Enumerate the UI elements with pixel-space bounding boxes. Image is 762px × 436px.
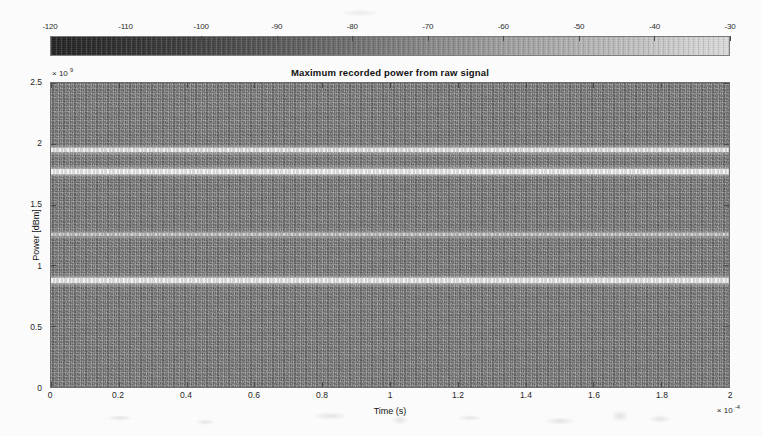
noise-floor-texture — [50, 82, 730, 388]
colorbar-tick-mark — [352, 36, 353, 41]
x-tick-mark — [729, 382, 730, 387]
carrier-band-2-core — [51, 169, 729, 174]
x-tick-mark — [390, 382, 391, 387]
y-tick-mark-right — [724, 83, 729, 84]
x-tick-label: 1 — [388, 390, 393, 400]
x-tick-label: 0.4 — [180, 390, 192, 400]
carrier-band-4 — [51, 278, 729, 283]
colorbar-tick-label: -110 — [118, 22, 133, 31]
y-tick-mark-right — [724, 265, 729, 266]
colorbar-tick-label: -70 — [422, 22, 433, 31]
colorbar-noise-overlay — [51, 37, 729, 55]
colorbar-tick-label: -40 — [649, 22, 660, 31]
x-tick-label: 1.4 — [520, 390, 532, 400]
colorbar-tick-mark — [654, 36, 655, 41]
carrier-band-3-core — [51, 233, 729, 236]
y-tick-mark-right — [724, 326, 729, 327]
colorbar-tick-label: -60 — [498, 22, 509, 31]
plot-title: Maximum recorded power from raw signal — [291, 67, 489, 78]
x-tick-label: 2 — [728, 390, 733, 400]
carrier-band-2-speckle — [51, 169, 729, 174]
colorbar-tick-label: -100 — [194, 22, 209, 31]
carrier-band-4-speckle — [51, 278, 729, 283]
colorbar-tick-mark — [126, 36, 127, 41]
y-tick-label: 1.5 — [30, 199, 42, 209]
x-tick-label: 1.6 — [588, 390, 600, 400]
colorbar-gradient-strip — [50, 36, 730, 56]
x-tick-mark — [187, 382, 188, 387]
y-tick-mark-right — [724, 144, 729, 145]
x-tick-mark-top — [729, 83, 730, 88]
carrier-band-1-glow — [50, 146, 730, 154]
y-tick-label: 0 — [37, 383, 42, 393]
carrier-band-3 — [51, 233, 729, 236]
colorbar-tick-mark — [428, 36, 429, 41]
y-tick-mark — [51, 265, 56, 266]
x-tick-mark-top — [322, 83, 323, 88]
x-tick-mark-top — [458, 83, 459, 88]
x-tick-mark-top — [390, 83, 391, 88]
x-tick-mark-top — [119, 83, 120, 88]
x-tick-mark — [119, 382, 120, 387]
colorbar-tick-label: -90 — [271, 22, 282, 31]
x-axis-exponent: × 10 -4 — [717, 404, 740, 415]
y-exponent-power: 9 — [70, 67, 73, 73]
y-tick-label: 2 — [37, 138, 42, 148]
x-tick-mark-top — [187, 83, 188, 88]
colorbar-tick-mark — [730, 36, 731, 41]
x-tick-label: 0.8 — [316, 390, 328, 400]
colorbar-tick-label: -50 — [573, 22, 584, 31]
colorbar-tick-label: -30 — [725, 22, 736, 31]
y-axis-exponent: × 10 9 — [52, 67, 73, 78]
y-tick-mark-right — [724, 387, 729, 388]
y-tick-mark — [51, 387, 56, 388]
carrier-band-1 — [51, 148, 729, 152]
x-tick-label: 0.2 — [112, 390, 124, 400]
y-tick-mark-right — [724, 205, 729, 206]
x-tick-mark — [593, 382, 594, 387]
x-tick-mark — [526, 382, 527, 387]
y-tick-label: 2.5 — [30, 77, 42, 87]
heatmap-canvas — [50, 82, 730, 388]
y-tick-label: 0.5 — [30, 322, 42, 332]
carrier-band-1-speckle — [51, 148, 729, 152]
y-tick-label: 1 — [37, 261, 42, 271]
x-tick-mark — [458, 382, 459, 387]
carrier-band-2 — [51, 169, 729, 174]
x-tick-label: 0 — [48, 390, 53, 400]
x-tick-mark-top — [661, 83, 662, 88]
power-colorbar: -120-110-100-90-80-70-60-50-40-30 — [50, 36, 730, 56]
y-axis-title: Power [dBm] — [31, 209, 41, 261]
colorbar-tick-label: -120 — [42, 22, 57, 31]
spectrogram-plot: Maximum recorded power from raw signal ×… — [50, 82, 730, 388]
carrier-band-3-speckle — [51, 233, 729, 236]
y-tick-mark — [51, 144, 56, 145]
x-tick-mark-top — [593, 83, 594, 88]
x-tick-mark-top — [254, 83, 255, 88]
y-tick-mark — [51, 326, 56, 327]
colorbar-tick-mark — [579, 36, 580, 41]
colorbar-tick-mark — [277, 36, 278, 41]
carrier-band-2-glow — [50, 167, 730, 176]
carrier-band-4-glow — [50, 276, 730, 285]
x-tick-label: 1.2 — [452, 390, 464, 400]
x-tick-label: 0.6 — [248, 390, 260, 400]
x-tick-label: 1.8 — [656, 390, 668, 400]
x-tick-mark — [254, 382, 255, 387]
y-tick-mark — [51, 83, 56, 84]
carrier-band-3-glow — [50, 231, 730, 238]
x-tick-mark-top — [526, 83, 527, 88]
x-axis-title: Time (s) — [374, 406, 407, 416]
x-exponent-power: -4 — [735, 404, 740, 410]
x-tick-mark — [322, 382, 323, 387]
colorbar-tick-mark — [503, 36, 504, 41]
x-tick-mark — [661, 382, 662, 387]
y-tick-mark — [51, 205, 56, 206]
carrier-band-1-core — [51, 148, 729, 152]
colorbar-tick-mark — [201, 36, 202, 41]
colorbar-tick-label: -80 — [347, 22, 358, 31]
carrier-band-4-core — [51, 278, 729, 283]
